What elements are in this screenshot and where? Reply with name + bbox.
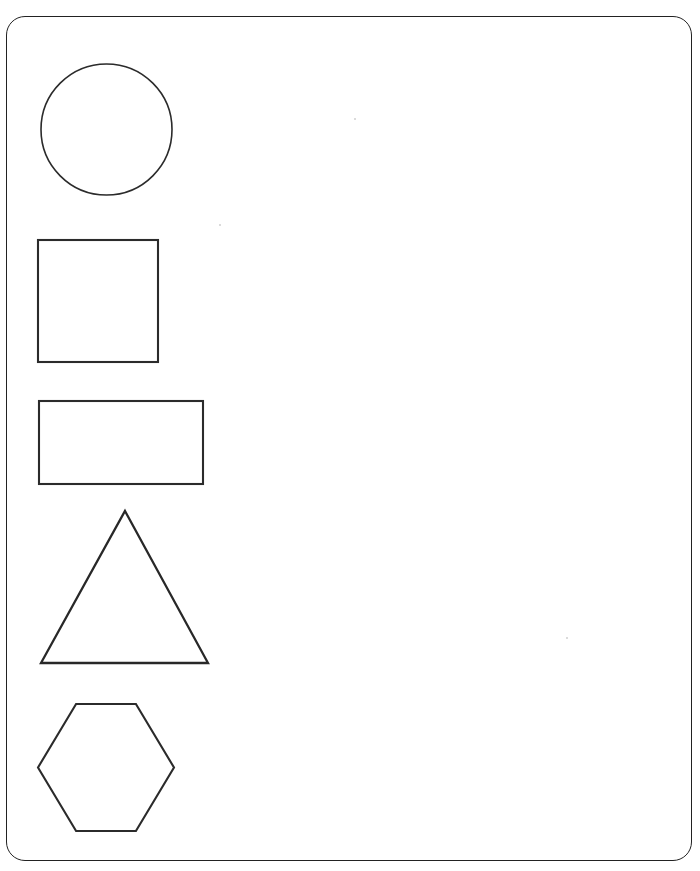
shape-hexagon[interactable] [34, 700, 178, 835]
shape-triangle[interactable] [37, 507, 212, 667]
scan-speck [566, 637, 568, 639]
shape-rectangle[interactable] [35, 397, 207, 488]
scan-speck [219, 224, 221, 226]
hexagon-icon [34, 700, 178, 835]
shape-circle[interactable] [37, 60, 176, 199]
square-icon [34, 236, 162, 366]
shape-square[interactable] [34, 236, 162, 366]
circle-icon [37, 60, 176, 199]
shape-stack [0, 0, 700, 871]
triangle-icon [37, 507, 212, 667]
worksheet-page [0, 0, 700, 871]
rectangle-icon [35, 397, 207, 488]
scan-speck [354, 118, 356, 120]
